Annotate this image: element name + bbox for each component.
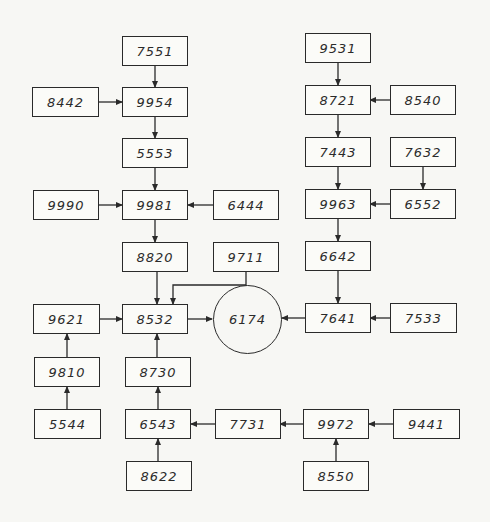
- node-7551: 7551: [122, 36, 188, 66]
- node-8550: 8550: [303, 461, 369, 491]
- node-9441: 9441: [393, 409, 460, 439]
- node-9972: 9972: [303, 409, 369, 439]
- node-8622: 8622: [126, 461, 192, 491]
- node-9810: 9810: [34, 357, 100, 387]
- node-8721: 8721: [305, 85, 371, 115]
- node-7641: 7641: [305, 303, 371, 333]
- node-7443: 7443: [305, 137, 371, 167]
- node-7533: 7533: [390, 303, 457, 333]
- node-7731: 7731: [215, 409, 281, 439]
- node-5553: 5553: [122, 138, 188, 168]
- node-6444: 6444: [213, 190, 279, 220]
- node-6552: 6552: [390, 189, 456, 219]
- node-8532: 8532: [122, 304, 188, 334]
- node-6174-circle: 6174: [213, 285, 282, 354]
- node-9963: 9963: [305, 189, 371, 219]
- node-6642: 6642: [305, 241, 371, 271]
- block-diagram: 7551 8442 9954 5553 9990 9981 6444 8820 …: [0, 0, 490, 522]
- node-8540: 8540: [390, 85, 456, 115]
- node-8442: 8442: [32, 87, 99, 117]
- node-5544: 5544: [34, 409, 101, 439]
- node-9990: 9990: [33, 190, 99, 220]
- node-9954: 9954: [122, 87, 188, 117]
- node-8730: 8730: [125, 357, 191, 387]
- node-8820: 8820: [122, 242, 188, 272]
- node-9621: 9621: [33, 304, 100, 334]
- node-6543: 6543: [125, 409, 191, 439]
- node-9711: 9711: [213, 242, 279, 272]
- node-9531: 9531: [305, 33, 371, 63]
- node-7632: 7632: [390, 137, 456, 167]
- node-9981: 9981: [122, 190, 188, 220]
